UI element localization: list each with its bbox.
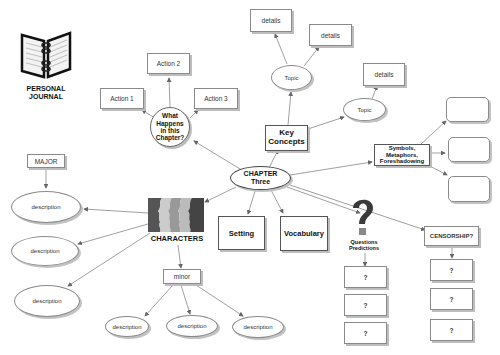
censorship-box-2[interactable]: ? [430,288,473,310]
major-description-1[interactable]: description [11,191,81,223]
minor-description-2[interactable]: description [166,315,218,337]
vocabulary-box[interactable]: Vocabulary [280,216,328,251]
details-box-2[interactable]: details [309,24,352,46]
concept-map-canvas: PERSONAL JOURNAL Action 1 Action 2 Actio… [0,0,500,355]
topic-ellipse-1[interactable]: Topic [271,65,312,90]
questions-predictions-label: Questions Predictions [343,239,385,252]
symbols-blank-box-2[interactable] [448,137,490,162]
details-box-1[interactable]: details [250,9,292,32]
major-description-3[interactable]: description [14,285,80,317]
personal-journal-label: PERSONAL JOURNAL [14,85,78,101]
minor-box[interactable]: minor [163,269,201,284]
question-box-3[interactable]: ? [344,322,387,344]
action-2-box[interactable]: Action 2 [147,53,190,74]
setting-box[interactable]: Setting [218,216,265,250]
question-mark-icon [349,196,377,238]
chapter-three-ellipse[interactable]: CHAPTER Three [230,166,291,190]
censorship-box-1[interactable]: ? [430,259,473,281]
censorship-box[interactable]: CENSORSHIP? [424,226,479,246]
notebook-icon [18,27,74,83]
faces-silhouette-icon [148,198,204,234]
action-3-box[interactable]: Action 3 [194,88,238,109]
characters-label: CHARACTERS [146,235,208,244]
symbols-metaphors-box[interactable]: Symbols, Metaphors, Foreshadowing [374,144,430,166]
symbols-blank-box-3[interactable] [448,176,490,202]
action-1-box[interactable]: Action 1 [100,88,144,109]
details-box-3[interactable]: details [363,63,405,86]
major-description-2[interactable]: description [11,236,79,266]
topic-ellipse-2[interactable]: Topic [343,98,386,121]
what-happens-circle[interactable]: What Happens in this Chapter? [150,107,190,147]
major-box[interactable]: MAJOR [27,154,65,168]
key-concepts-box[interactable]: Key Concepts [265,125,308,151]
minor-description-3[interactable]: description [232,316,284,338]
question-box-2[interactable]: ? [344,294,387,316]
question-box-1[interactable]: ? [344,266,387,288]
minor-description-1[interactable]: description [105,316,149,337]
symbols-blank-box-1[interactable] [446,97,489,122]
censorship-box-3[interactable]: ? [430,319,473,341]
